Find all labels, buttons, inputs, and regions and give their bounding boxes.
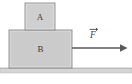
ground-surface <box>0 68 132 73</box>
figure-canvas: A B F <box>0 0 132 84</box>
physics-figure: A B F <box>0 0 132 84</box>
force-vector-accent-head-icon <box>96 28 98 31</box>
force-label: F <box>89 30 96 40</box>
block-b-label: B <box>37 44 43 54</box>
block-a-label: A <box>37 12 44 22</box>
force-arrowhead-icon <box>120 44 128 51</box>
